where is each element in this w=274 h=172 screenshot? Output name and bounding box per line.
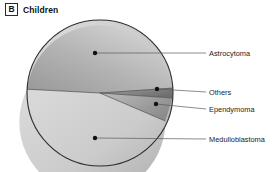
pie-slice-astrocytoma[interactable] (27, 25, 172, 93)
callout-label-others: Others (209, 89, 231, 96)
callout-label-ependymoma: Ependymoma (209, 106, 255, 113)
pie-chart (0, 0, 274, 172)
marker-dot-astrocytoma (93, 51, 97, 55)
marker-dot-others (155, 87, 159, 91)
callout-label-astrocytoma: Astrocytoma (209, 50, 250, 57)
marker-dot-ependymoma (154, 102, 158, 106)
figure-panel-b: B Children (0, 0, 274, 172)
callout-label-medulloblastoma: Medulloblastoma (209, 136, 265, 143)
marker-dot-medulloblastoma (93, 136, 97, 140)
